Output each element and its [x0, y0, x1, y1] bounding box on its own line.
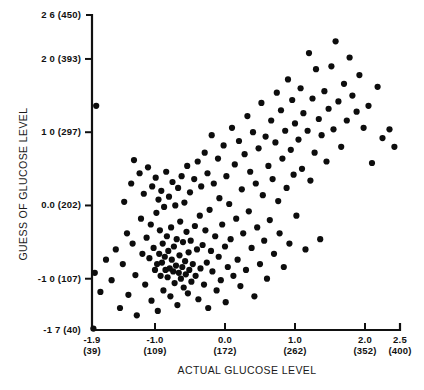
x-tick-label-primary: 0.0: [218, 334, 232, 345]
data-point: [244, 113, 250, 119]
data-point: [279, 155, 285, 161]
data-point: [145, 164, 151, 170]
data-point: [190, 261, 196, 267]
data-point: [391, 144, 397, 150]
data-point: [341, 81, 347, 87]
data-point: [195, 296, 201, 302]
data-point: [205, 305, 211, 311]
data-point: [188, 238, 194, 244]
data-point: [316, 116, 322, 122]
data-point: [236, 138, 242, 144]
scatter-plot-figure: GUESS OF GLUCOSE LEVEL ACTUAL GLUCOSE LE…: [0, 0, 424, 390]
data-point: [141, 191, 147, 197]
x-tick-label-secondary: (109): [125, 345, 185, 356]
data-point: [223, 299, 229, 305]
x-axis-title: ACTUAL GLUCOSE LEVEL: [92, 364, 402, 376]
x-tick-label-primary: -1.9: [83, 334, 100, 345]
data-point: [165, 248, 171, 254]
data-point: [113, 246, 119, 252]
data-point: [208, 248, 214, 254]
data-point: [299, 166, 305, 172]
data-point: [333, 38, 339, 44]
y-tick-label: 1 0 (297): [0, 126, 81, 137]
data-point: [138, 216, 144, 222]
data-point: [246, 208, 252, 214]
data-point: [178, 276, 184, 282]
data-point: [319, 132, 325, 138]
data-point: [174, 302, 180, 308]
data-point: [177, 218, 183, 224]
data-point: [155, 197, 161, 203]
data-point: [142, 281, 148, 287]
data-point: [197, 213, 203, 219]
data-point: [265, 163, 271, 169]
data-point: [278, 107, 284, 113]
data-point: [291, 172, 297, 178]
data-point: [152, 267, 158, 273]
data-point: [375, 84, 381, 90]
data-point: [124, 230, 130, 236]
x-tick-label: 1.0(262): [265, 334, 325, 356]
data-point: [186, 249, 192, 255]
data-point: [155, 308, 161, 314]
data-point: [286, 240, 292, 246]
data-point: [121, 199, 127, 205]
data-point: [250, 129, 256, 135]
data-point: [185, 290, 191, 296]
data-point: [120, 261, 126, 267]
data-point: [282, 128, 288, 134]
data-point: [165, 274, 171, 280]
data-point: [222, 243, 228, 249]
data-point: [167, 293, 173, 299]
data-point: [386, 126, 392, 132]
data-point: [153, 210, 159, 216]
data-point: [361, 125, 367, 131]
data-point: [191, 176, 197, 182]
data-point: [148, 221, 154, 227]
data-point: [257, 261, 263, 267]
x-tick-label-secondary: (262): [265, 345, 325, 356]
data-point: [268, 117, 274, 123]
data-point: [289, 97, 295, 103]
data-point: [254, 224, 260, 230]
data-point: [379, 135, 385, 141]
data-point: [103, 257, 109, 263]
data-point: [160, 287, 166, 293]
data-point: [214, 287, 220, 293]
data-points: [90, 38, 397, 331]
data-point: [158, 273, 164, 279]
data-point: [226, 201, 232, 207]
data-point: [261, 238, 267, 244]
data-point: [162, 254, 168, 260]
data-point: [300, 110, 306, 116]
data-point: [354, 109, 360, 115]
data-point: [312, 150, 318, 156]
data-point: [204, 170, 210, 176]
data-point: [169, 257, 175, 263]
data-point: [173, 262, 179, 268]
data-point: [179, 264, 185, 270]
x-tick-label: -1.0(109): [125, 334, 185, 356]
x-tick-label: -1.9(39): [62, 334, 122, 356]
data-point: [271, 251, 277, 257]
data-point: [209, 132, 215, 138]
data-point: [109, 277, 115, 283]
data-point: [161, 204, 167, 210]
data-point: [249, 245, 255, 251]
data-point: [148, 298, 154, 304]
data-point: [349, 92, 355, 98]
data-point: [176, 252, 182, 258]
y-tick-label: 2 6 (450): [0, 9, 81, 20]
data-point: [272, 139, 278, 145]
data-point: [233, 216, 239, 222]
data-point: [187, 189, 193, 195]
x-tick-label: 2.5(400): [370, 334, 424, 356]
x-tick-label-secondary: (39): [62, 345, 122, 356]
data-point: [223, 173, 229, 179]
data-point: [313, 66, 319, 72]
data-point: [179, 173, 185, 179]
data-point: [338, 144, 344, 150]
data-point: [175, 185, 181, 191]
data-point: [328, 63, 334, 69]
data-point: [201, 281, 207, 287]
